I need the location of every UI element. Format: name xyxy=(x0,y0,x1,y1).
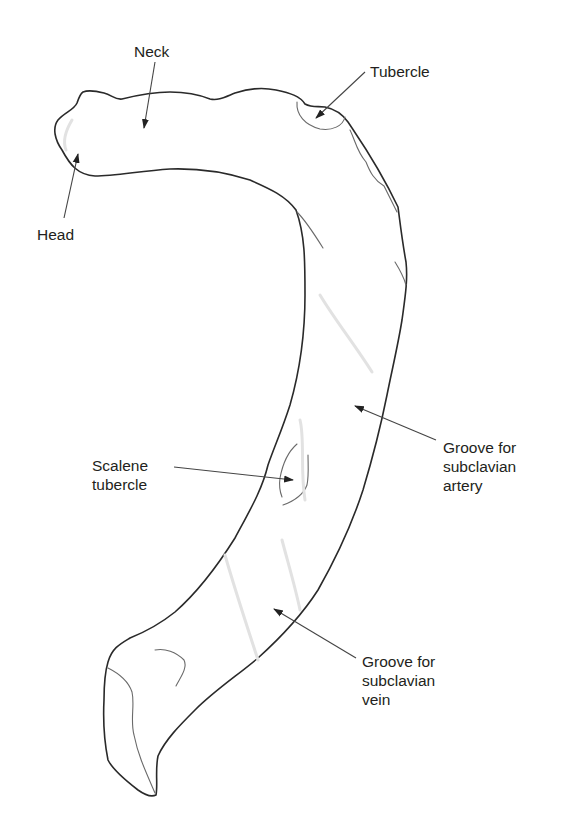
groove-shading xyxy=(300,420,305,500)
tubercle-leader xyxy=(316,72,365,118)
ridge-line xyxy=(395,262,406,285)
label-line: Groove for xyxy=(443,438,516,457)
rib-outline xyxy=(55,88,407,795)
label-neck: Neck xyxy=(134,42,169,61)
label-line: Groove for xyxy=(362,652,435,671)
costal-facet-line xyxy=(155,649,185,686)
label-head-text: Head xyxy=(37,226,74,243)
label-line: tubercle xyxy=(92,475,148,494)
label-groove-subclavian-vein: Groove for subclavian vein xyxy=(362,652,435,709)
neck-leader xyxy=(144,62,155,128)
first-rib-diagram xyxy=(0,0,573,822)
label-line: subclavian xyxy=(362,671,435,690)
scalene-leader xyxy=(174,467,293,480)
vein-leader xyxy=(274,609,356,658)
label-neck-text: Neck xyxy=(134,43,169,60)
label-groove-subclavian-artery: Groove for subclavian artery xyxy=(443,438,516,495)
label-line: vein xyxy=(362,690,435,709)
costal-edge-line xyxy=(108,668,155,793)
scalene-mark xyxy=(280,444,297,497)
label-scalene-tubercle: Scalene tubercle xyxy=(92,456,148,494)
label-head: Head xyxy=(37,225,74,244)
groove-shading xyxy=(225,555,258,660)
head-facet-shading xyxy=(64,120,72,150)
label-tubercle-text: Tubercle xyxy=(370,63,430,80)
groove-shading xyxy=(320,295,372,372)
label-line: artery xyxy=(443,476,516,495)
ridge-line xyxy=(350,130,397,212)
groove-shading xyxy=(282,540,300,610)
label-line: subclavian xyxy=(443,457,516,476)
label-tubercle: Tubercle xyxy=(370,62,430,81)
artery-leader xyxy=(355,406,436,440)
label-line: Scalene xyxy=(92,456,148,475)
